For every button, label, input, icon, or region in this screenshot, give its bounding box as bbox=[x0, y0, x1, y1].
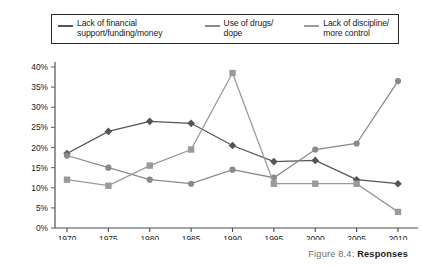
data-point bbox=[395, 78, 401, 84]
data-point bbox=[270, 158, 278, 166]
data-point bbox=[395, 209, 401, 215]
data-point bbox=[105, 128, 113, 136]
data-point bbox=[229, 142, 237, 150]
data-point bbox=[394, 180, 402, 188]
chart-legend: Lack of financial support/funding/money … bbox=[51, 14, 399, 44]
legend-item-discipline: Lack of discipline/ more control bbox=[304, 19, 398, 38]
data-point bbox=[229, 70, 235, 76]
data-point bbox=[312, 146, 318, 152]
legend-swatch-financial-support bbox=[58, 25, 73, 27]
y-axis-tick-label: 25% bbox=[31, 122, 48, 132]
x-axis-tick-label: 1980 bbox=[140, 234, 159, 240]
y-axis-tick-label: 10% bbox=[31, 183, 48, 193]
data-point bbox=[187, 120, 195, 128]
data-point bbox=[312, 181, 318, 187]
line-chart: 0%5%10%15%20%25%30%35%40%197019751980198… bbox=[0, 55, 422, 240]
data-point bbox=[146, 118, 154, 126]
data-point bbox=[188, 181, 194, 187]
x-axis-tick-label: 1970 bbox=[58, 234, 77, 240]
data-point bbox=[147, 162, 153, 168]
caption-title: Responses bbox=[357, 249, 408, 259]
legend-label-financial-support: Lack of financial support/funding/money bbox=[77, 19, 162, 38]
series-diamond bbox=[63, 118, 402, 188]
x-axis-tick-label: 1995 bbox=[265, 234, 284, 240]
legend-label-drugs: Use of drugs/ dope bbox=[224, 19, 274, 38]
data-point bbox=[311, 157, 319, 165]
y-axis-tick-label: 35% bbox=[31, 82, 48, 92]
x-axis-tick-label: 2000 bbox=[306, 234, 325, 240]
data-point bbox=[229, 167, 235, 173]
legend-label-line2: dope bbox=[224, 29, 274, 39]
data-point bbox=[64, 152, 70, 158]
legend-item-financial-support: Lack of financial support/funding/money bbox=[58, 19, 205, 38]
plot-area: 0%5%10%15%20%25%30%35%40%197019751980198… bbox=[0, 55, 422, 240]
y-axis-tick-label: 30% bbox=[31, 102, 48, 112]
legend-label-discipline: Lack of discipline/ more control bbox=[323, 19, 389, 38]
x-axis-tick-label: 1990 bbox=[223, 234, 242, 240]
legend-item-drugs: Use of drugs/ dope bbox=[205, 19, 305, 38]
y-axis-tick-label: 5% bbox=[36, 203, 49, 213]
y-axis-tick-label: 15% bbox=[31, 163, 48, 173]
caption-label: Figure 8.4: bbox=[308, 249, 354, 259]
legend-label-line2: more control bbox=[323, 29, 389, 39]
legend-swatch-discipline bbox=[304, 25, 319, 27]
data-point bbox=[105, 183, 111, 189]
series-circle bbox=[64, 78, 401, 187]
y-axis-tick-label: 20% bbox=[31, 143, 48, 153]
x-axis-tick-label: 1985 bbox=[182, 234, 201, 240]
x-axis-tick-label: 1975 bbox=[99, 234, 118, 240]
legend-label-line2: support/funding/money bbox=[77, 29, 162, 39]
figure-container: Lack of financial support/funding/money … bbox=[0, 0, 422, 267]
figure-caption: Figure 8.4: Responses bbox=[308, 249, 408, 259]
data-point bbox=[353, 181, 359, 187]
data-point bbox=[147, 177, 153, 183]
x-axis-tick-label: 2005 bbox=[347, 234, 366, 240]
legend-swatch-drugs bbox=[205, 25, 220, 27]
data-point bbox=[354, 140, 360, 146]
data-point bbox=[188, 146, 194, 152]
y-axis-tick-label: 0% bbox=[36, 223, 49, 233]
data-point bbox=[105, 165, 111, 171]
data-point bbox=[64, 177, 70, 183]
y-axis-tick-label: 40% bbox=[31, 62, 48, 72]
data-point bbox=[271, 181, 277, 187]
x-axis-tick-label: 2010 bbox=[389, 234, 408, 240]
